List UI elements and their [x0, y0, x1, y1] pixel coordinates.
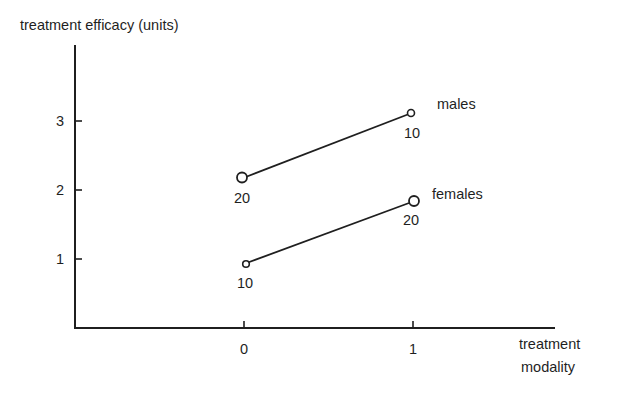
females-point-label-0: 10 — [237, 275, 253, 291]
y-tick-label-1: 1 — [56, 251, 64, 267]
series-females: 10 20 females — [237, 186, 483, 291]
x-tick-label-0: 0 — [240, 341, 248, 357]
males-point-0 — [237, 173, 247, 183]
interaction-line-chart: treatment efficacy (units) 1 2 3 0 1 tre… — [0, 0, 628, 393]
x-axis-title-line-1: treatment — [519, 336, 580, 352]
x-axis-title-line-2: modality — [521, 359, 576, 375]
males-point-label-0: 20 — [234, 190, 250, 206]
females-point-1 — [409, 196, 419, 206]
males-point-1 — [408, 110, 415, 117]
females-point-label-1: 20 — [403, 212, 419, 228]
females-legend-label: females — [432, 186, 483, 202]
females-line — [248, 203, 409, 263]
y-tick-label-2: 2 — [56, 182, 64, 198]
y-tick-label-3: 3 — [56, 113, 64, 129]
males-point-label-1: 10 — [404, 125, 420, 141]
females-point-0 — [243, 261, 250, 268]
males-legend-label: males — [437, 96, 476, 112]
y-axis-title: treatment efficacy (units) — [20, 17, 179, 33]
y-ticks: 1 2 3 — [56, 113, 82, 267]
x-ticks: 0 1 — [240, 321, 417, 357]
males-line — [247, 114, 409, 177]
x-tick-label-1: 1 — [409, 341, 417, 357]
